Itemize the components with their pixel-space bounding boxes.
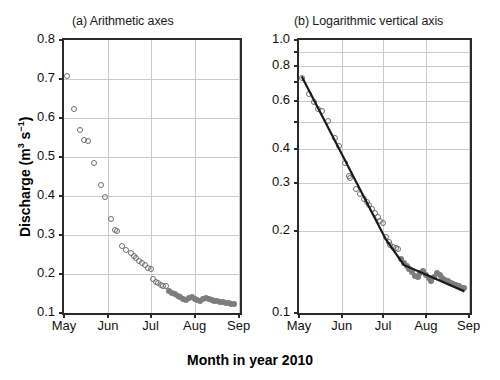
data-point-open [85, 138, 91, 144]
y-axis-tick-label: 0.5 [13, 148, 55, 163]
gridline-horizontal [64, 79, 240, 80]
y-axis-tick-label: 0.6 [248, 92, 290, 107]
panel-a-title: (a) Arithmetic axes [72, 14, 174, 28]
gridline-vertical [151, 40, 152, 313]
fitted-recession-line [299, 40, 470, 313]
x-axis-tick-label: Sep [214, 318, 264, 333]
y-axis-tick-label: 0.3 [13, 226, 55, 241]
y-axis-tick [59, 117, 64, 119]
y-axis-tick-label: 0.7 [13, 70, 55, 85]
x-axis-tick-label: Sep [444, 318, 494, 333]
y-axis-tick-label: 0.8 [13, 31, 55, 46]
gridline-horizontal [64, 235, 240, 236]
data-point-open [148, 266, 154, 272]
data-point-open [108, 216, 114, 222]
y-axis-tick [59, 39, 64, 41]
y-axis-tick-label: 0.2 [248, 222, 290, 237]
gridline-horizontal [64, 274, 240, 275]
figure-root: (a) Arithmetic axes (b) Logarithmic vert… [0, 0, 500, 380]
gridline-horizontal [64, 196, 240, 197]
panel-a-plot-area: 0.10.20.30.40.50.60.70.8MayJunJulAugSep [62, 38, 242, 315]
y-axis-tick [59, 195, 64, 197]
y-axis-tick [59, 234, 64, 236]
y-axis-tick-label: 0.4 [13, 187, 55, 202]
y-axis-tick-label: 0.2 [13, 265, 55, 280]
data-point-open [71, 106, 77, 112]
x-axis-label: Month in year 2010 [0, 352, 500, 368]
x-axis-tick-label: May [39, 318, 89, 333]
data-point-open [114, 228, 120, 234]
x-axis-tick-label: Jul [126, 318, 176, 333]
data-point-open [98, 182, 104, 188]
y-axis-tick-label: 0.8 [248, 57, 290, 72]
y-axis-tick [59, 78, 64, 80]
y-axis-tick-label: 1.0 [248, 31, 290, 46]
panel-b-title: (b) Logarithmic vertical axis [294, 14, 443, 28]
gridline-horizontal [64, 157, 240, 158]
x-axis-tick-label: Aug [170, 318, 220, 333]
data-point-open [91, 160, 97, 166]
y-axis-tick-label: 0.4 [248, 140, 290, 155]
data-point-filled [231, 301, 237, 307]
gridline-horizontal [64, 118, 240, 119]
gridline-vertical [108, 40, 109, 313]
y-axis-tick-label: 0.1 [13, 304, 55, 319]
y-axis-tick-label: 0.3 [248, 174, 290, 189]
data-point-open [77, 127, 83, 133]
y-axis-tick-label: 0.1 [248, 304, 290, 319]
panel-b-plot-area: 0.10.20.30.40.60.81.0MayJunJulAugSep [297, 38, 472, 315]
gridline-vertical [195, 40, 196, 313]
y-axis-label: Discharge (m3 s−1) [16, 116, 33, 236]
y-axis-label-text-2: s [17, 131, 33, 143]
y-axis-tick [59, 156, 64, 158]
y-axis-tick-label: 0.6 [13, 109, 55, 124]
y-axis-tick [59, 273, 64, 275]
gridline-vertical [239, 40, 240, 313]
